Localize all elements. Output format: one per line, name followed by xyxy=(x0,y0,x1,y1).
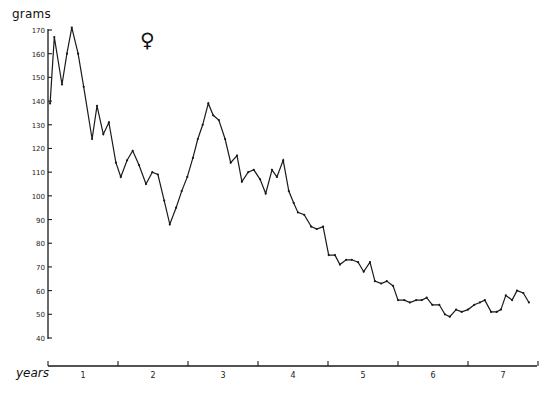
data-point xyxy=(197,138,199,140)
line-chart: 405060708090100110120130140150160170 123… xyxy=(0,0,549,395)
data-point xyxy=(126,159,128,161)
data-point xyxy=(276,176,278,178)
y-tick-label: 110 xyxy=(32,169,45,177)
data-point xyxy=(505,294,507,296)
data-point xyxy=(115,162,117,164)
y-tick-label: 90 xyxy=(36,217,45,225)
y-tick-label: 120 xyxy=(32,145,45,153)
y-axis-label: grams xyxy=(12,7,51,21)
female-symbol-icon: ♀ xyxy=(140,30,155,50)
data-point xyxy=(438,304,440,306)
data-point xyxy=(522,292,524,294)
y-tick-label: 50 xyxy=(36,311,45,319)
data-point xyxy=(186,176,188,178)
data-point xyxy=(339,263,341,265)
data-point xyxy=(181,190,183,192)
data-point xyxy=(102,133,104,135)
data-point xyxy=(49,102,51,104)
data-point xyxy=(467,308,469,310)
data-point xyxy=(71,27,73,29)
data-point xyxy=(511,299,513,301)
data-point xyxy=(293,202,295,204)
data-point xyxy=(96,105,98,107)
data-point xyxy=(479,301,481,303)
data-point xyxy=(334,254,336,256)
data-point xyxy=(415,299,417,301)
data-point xyxy=(247,171,249,173)
y-tick-label: 60 xyxy=(36,288,45,296)
data-point xyxy=(83,86,85,88)
data-point xyxy=(528,301,530,303)
y-tick-label: 100 xyxy=(32,193,45,201)
data-point xyxy=(516,290,518,292)
data-point xyxy=(363,271,365,273)
data-point xyxy=(288,190,290,192)
x-axis-label: years xyxy=(16,366,49,380)
data-point xyxy=(282,159,284,161)
data-point xyxy=(351,259,353,261)
x-tick-label: 7 xyxy=(500,371,505,380)
data-point xyxy=(328,254,330,256)
data-point xyxy=(265,192,267,194)
x-tick-label: 4 xyxy=(290,371,295,380)
x-tick-label: 5 xyxy=(360,371,365,380)
y-tick-label: 70 xyxy=(36,264,45,272)
data-point xyxy=(500,308,502,310)
data-point xyxy=(484,299,486,301)
data-point xyxy=(380,282,382,284)
data-point xyxy=(207,102,209,104)
data-point xyxy=(192,157,194,159)
data-point xyxy=(91,138,93,140)
x-axis: 1234567 xyxy=(48,361,538,380)
data-point xyxy=(175,207,177,209)
data-point xyxy=(473,304,475,306)
data-point xyxy=(230,162,232,164)
data-point xyxy=(426,297,428,299)
data-point xyxy=(218,119,220,121)
data-point xyxy=(303,214,305,216)
data-point xyxy=(212,114,214,116)
data-point xyxy=(316,228,318,230)
data-point xyxy=(108,121,110,123)
data-point xyxy=(369,261,371,263)
data-point xyxy=(61,83,63,85)
data-point xyxy=(202,124,204,126)
y-tick-label: 150 xyxy=(32,74,45,82)
data-series xyxy=(49,27,530,318)
y-tick-label: 80 xyxy=(36,240,45,248)
series-line xyxy=(50,28,529,317)
data-point xyxy=(397,299,399,301)
data-point xyxy=(151,171,153,173)
data-point xyxy=(236,154,238,156)
data-point xyxy=(145,183,147,185)
y-tick-label: 40 xyxy=(36,335,45,343)
data-point xyxy=(66,53,68,55)
data-point xyxy=(297,211,299,213)
data-point xyxy=(322,226,324,228)
data-point xyxy=(409,301,411,303)
y-tick-label: 170 xyxy=(32,27,45,35)
data-point xyxy=(490,311,492,313)
x-tick-label: 6 xyxy=(430,371,435,380)
data-point xyxy=(444,313,446,315)
x-tick-label: 2 xyxy=(150,371,155,380)
data-point xyxy=(132,150,134,152)
data-point xyxy=(403,299,405,301)
data-point xyxy=(421,299,423,301)
data-point xyxy=(345,259,347,261)
data-point xyxy=(374,280,376,282)
data-point xyxy=(224,138,226,140)
data-point xyxy=(310,226,312,228)
data-point xyxy=(120,176,122,178)
y-tick-label: 160 xyxy=(32,51,45,59)
y-tick-label: 130 xyxy=(32,122,45,130)
data-point xyxy=(169,223,171,225)
data-point xyxy=(449,316,451,318)
data-point xyxy=(271,169,273,171)
data-point xyxy=(138,164,140,166)
data-point xyxy=(77,53,79,55)
y-axis: 405060708090100110120130140150160170 xyxy=(32,27,52,343)
data-point xyxy=(259,178,261,180)
x-tick-label: 1 xyxy=(80,371,85,380)
data-point xyxy=(431,304,433,306)
